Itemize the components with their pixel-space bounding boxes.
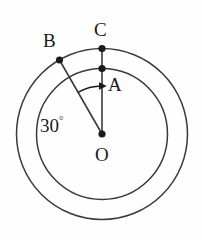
angle-measure-label: 30° [40,116,63,135]
point-label-a: A [108,75,122,94]
geometry-figure: B C A O 30° [0,0,202,240]
angle-value: 30 [40,115,59,136]
angle-arc [78,86,102,92]
point-c [98,45,105,52]
point-a [98,65,105,72]
point-label-c: C [94,20,107,39]
point-o [98,130,105,137]
point-b [56,56,63,63]
point-label-b: B [43,31,56,50]
point-label-o: O [95,145,109,164]
degree-symbol-icon: ° [59,114,63,126]
segment-ob [60,60,103,134]
